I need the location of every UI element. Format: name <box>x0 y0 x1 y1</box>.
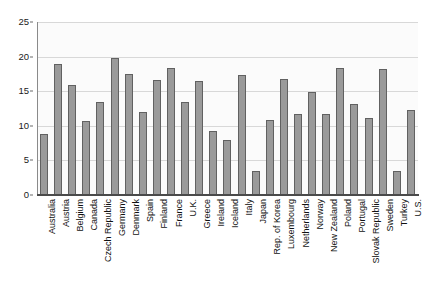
y-axis-tick-mark <box>30 91 33 92</box>
x-axis-label-slot: Luxembourg <box>277 197 291 293</box>
y-axis-tick-label: 15 <box>18 86 29 96</box>
bar-slot <box>404 22 418 195</box>
x-axis-label-slot: Netherlands <box>291 197 305 293</box>
bar[interactable] <box>195 81 203 195</box>
bar-slot <box>192 22 206 195</box>
x-axis-label-slot: Slovak Republic <box>362 197 376 293</box>
bar-slot <box>390 22 404 195</box>
x-axis-label-slot: U.S. <box>404 197 418 293</box>
x-axis-label-slot: Ireland <box>206 197 220 293</box>
bar-slot <box>79 22 93 195</box>
bar-slot <box>277 22 291 195</box>
bar-slot <box>362 22 376 195</box>
y-axis-tick-mark <box>30 195 33 196</box>
bar[interactable] <box>252 171 260 195</box>
x-axis-label-slot: Austria <box>51 197 65 293</box>
y-axis-tick-label: 25 <box>18 17 29 27</box>
bar-slot <box>206 22 220 195</box>
bar-slot <box>93 22 107 195</box>
bars-layer <box>37 22 418 195</box>
bar-chart: 0510152025 AustraliaAustriaBelgiumCanada… <box>0 0 426 295</box>
bar-slot <box>319 22 333 195</box>
bar-slot <box>164 22 178 195</box>
bar[interactable] <box>336 68 344 195</box>
bar-slot <box>235 22 249 195</box>
bar[interactable] <box>111 58 119 195</box>
bar[interactable] <box>266 120 274 195</box>
bar[interactable] <box>209 131 217 195</box>
x-axis-tick-label: U.S. <box>414 199 423 217</box>
y-axis-tick-label: 10 <box>18 121 29 131</box>
bar-slot <box>220 22 234 195</box>
bar-slot <box>108 22 122 195</box>
y-axis-tick-label: 0 <box>24 190 29 200</box>
bar[interactable] <box>54 64 62 195</box>
x-axis-label-slot: Sweden <box>376 197 390 293</box>
y-axis-tick-mark <box>30 22 33 23</box>
bar-slot <box>37 22 51 195</box>
bar[interactable] <box>40 134 48 195</box>
bar[interactable] <box>280 79 288 195</box>
x-axis-label-slot: Iceland <box>220 197 234 293</box>
x-axis-label-slot: Czech Republic <box>93 197 107 293</box>
x-axis-label-slot: Japan <box>249 197 263 293</box>
bar[interactable] <box>223 140 231 195</box>
y-axis: 0510152025 <box>0 22 33 195</box>
bar[interactable] <box>365 118 373 195</box>
bar[interactable] <box>167 68 175 195</box>
x-axis-label-slot: Portugal <box>347 197 361 293</box>
bar-slot <box>65 22 79 195</box>
x-axis-label-slot: Poland <box>333 197 347 293</box>
bar-slot <box>305 22 319 195</box>
bar-slot <box>376 22 390 195</box>
bar-slot <box>291 22 305 195</box>
bar-slot <box>249 22 263 195</box>
x-axis-label-slot: France <box>164 197 178 293</box>
x-axis-label-slot: Turkey <box>390 197 404 293</box>
y-axis-tick-mark <box>30 160 33 161</box>
bar[interactable] <box>350 104 358 195</box>
x-axis-label-slot: Australia <box>37 197 51 293</box>
x-axis-label-slot: Italy <box>235 197 249 293</box>
y-axis-tick-label: 20 <box>18 52 29 62</box>
y-axis-tick-label: 5 <box>24 156 29 166</box>
bar[interactable] <box>294 114 302 195</box>
bar-slot <box>333 22 347 195</box>
x-axis-label-slot: Norway <box>305 197 319 293</box>
bar[interactable] <box>139 112 147 195</box>
bar[interactable] <box>322 114 330 195</box>
x-axis-label-slot: Spain <box>136 197 150 293</box>
x-axis-label-slot: Greece <box>192 197 206 293</box>
y-axis-tick-mark <box>30 125 33 126</box>
bar-slot <box>263 22 277 195</box>
bar-slot <box>136 22 150 195</box>
x-axis-label-slot: New Zealand <box>319 197 333 293</box>
x-axis-label-slot: U.K. <box>178 197 192 293</box>
bar[interactable] <box>393 171 401 195</box>
bar-slot <box>122 22 136 195</box>
bar[interactable] <box>125 74 133 195</box>
bar-slot <box>51 22 65 195</box>
y-axis-tick-mark <box>30 56 33 57</box>
bar-slot <box>150 22 164 195</box>
x-axis-label-slot: Rep. of Korea <box>263 197 277 293</box>
x-axis-labels: AustraliaAustriaBelgiumCanadaCzech Repub… <box>37 197 418 293</box>
bar[interactable] <box>68 85 76 195</box>
bar[interactable] <box>96 102 104 195</box>
bar[interactable] <box>181 102 189 195</box>
bar[interactable] <box>379 69 387 195</box>
x-axis-label-slot: Germany <box>108 197 122 293</box>
bar-slot <box>347 22 361 195</box>
bar[interactable] <box>407 110 415 195</box>
bar[interactable] <box>238 75 246 195</box>
x-axis-label-slot: Canada <box>79 197 93 293</box>
x-axis-label-slot: Belgium <box>65 197 79 293</box>
bar[interactable] <box>82 121 90 195</box>
x-axis-label-slot: Finland <box>150 197 164 293</box>
bar[interactable] <box>153 80 161 195</box>
bar-slot <box>178 22 192 195</box>
x-axis-line <box>37 194 419 196</box>
x-axis-label-slot: Denmark <box>122 197 136 293</box>
bar[interactable] <box>308 92 316 195</box>
